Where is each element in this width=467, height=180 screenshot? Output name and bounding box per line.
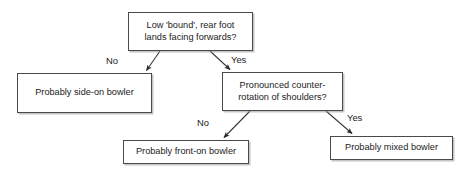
edge-label-root-yes: Yes	[231, 54, 246, 65]
decision-node-rear-foot[interactable]: Low 'bound', rear foot lands facing forw…	[128, 12, 253, 51]
outcome-node-front-on-bowler-label: Probably front-on bowler	[132, 146, 240, 158]
edge-label-counter-no: No	[197, 117, 209, 128]
outcome-node-mixed-bowler[interactable]: Probably mixed bowler	[330, 136, 453, 160]
outcome-node-mixed-bowler-label: Probably mixed bowler	[341, 142, 442, 154]
edge-root-no	[147, 51, 161, 71]
decision-node-rear-foot-label: Low 'bound', rear foot lands facing forw…	[141, 20, 241, 44]
flowchart-canvas: Low 'bound', rear foot lands facing forw…	[0, 0, 467, 180]
edge-label-root-no: No	[106, 55, 118, 66]
outcome-node-side-on-bowler[interactable]: Probably side-on bowler	[17, 73, 152, 113]
edge-label-counter-yes: Yes	[347, 112, 362, 123]
edge-counter-no	[224, 111, 250, 138]
outcome-node-front-on-bowler[interactable]: Probably front-on bowler	[123, 140, 249, 164]
outcome-node-side-on-bowler-label: Probably side-on bowler	[31, 87, 138, 99]
decision-node-counter-rotation[interactable]: Pronounced counter- rotation of shoulder…	[222, 72, 343, 111]
decision-node-counter-rotation-label: Pronounced counter- rotation of shoulder…	[234, 80, 330, 104]
edge-root-yes	[210, 51, 230, 70]
